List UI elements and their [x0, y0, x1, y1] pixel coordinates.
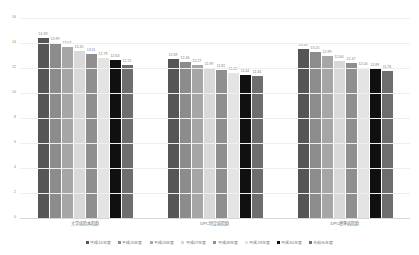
gridline: [20, 118, 410, 119]
bar-value-label: 13.11: [87, 49, 96, 53]
y-axis-tick-label: 8: [14, 116, 16, 120]
bar-value-label: 12.27: [193, 60, 202, 64]
bar[interactable]: [228, 73, 239, 218]
legend-item[interactable]: 平成24年度: [86, 241, 111, 245]
bar-value-label: 12.99: [323, 51, 332, 55]
bar-value-label: 11.34: [253, 71, 262, 75]
legend-swatch-icon: [213, 241, 216, 244]
legend-swatch-icon: [86, 241, 89, 244]
y-axis-tick-label: 16: [12, 16, 16, 20]
bar[interactable]: [240, 75, 251, 218]
bar[interactable]: [180, 62, 191, 218]
legend-item[interactable]: 平成26年度: [150, 241, 175, 245]
gridline: [20, 168, 410, 169]
bar[interactable]: [50, 43, 61, 218]
bar-value-label: 11.99: [205, 63, 214, 67]
bar-value-label: 13.35: [75, 46, 84, 50]
category-label: 大学病院本院群: [71, 222, 99, 226]
legend-swatch-icon: [118, 241, 121, 244]
y-axis: 1614121086420: [0, 18, 18, 218]
bar-value-label: 12.60: [335, 56, 344, 60]
legend-swatch-icon: [277, 241, 280, 244]
bar[interactable]: [110, 60, 121, 218]
legend-item[interactable]: 平成28年度: [213, 241, 238, 245]
bar-value-label: 12.21: [123, 60, 132, 64]
bar[interactable]: [122, 65, 133, 218]
bar[interactable]: [252, 76, 263, 218]
bar-value-label: 12.69: [169, 54, 178, 58]
category-label: DPC特定病院群: [200, 222, 229, 226]
bar-value-label: 12.79: [99, 53, 108, 57]
bar-chart: 1614121086420 14.3913.9913.6713.3513.111…: [0, 0, 419, 255]
y-axis-tick-label: 14: [12, 41, 16, 45]
legend-swatch-icon: [150, 241, 153, 244]
legend-item[interactable]: 令和元年度: [309, 241, 334, 245]
legend-label: 令和元年度: [313, 241, 333, 245]
y-axis-tick-label: 4: [14, 166, 16, 170]
bar[interactable]: [346, 63, 357, 218]
bar-value-label: 12.04: [359, 63, 368, 67]
gridline: [20, 68, 410, 69]
gridline: [20, 193, 410, 194]
bar-value-label: 13.50: [299, 44, 308, 48]
bar[interactable]: [98, 58, 109, 218]
legend-label: 平成28年度: [218, 241, 238, 245]
bar[interactable]: [168, 59, 179, 218]
bar[interactable]: [38, 38, 49, 218]
y-axis-tick-label: 12: [12, 66, 16, 70]
chart-legend: 平成24年度平成25年度平成26年度平成27年度平成28年度平成29年度平成30…: [0, 241, 419, 245]
legend-item[interactable]: 平成29年度: [245, 241, 270, 245]
y-axis-tick-label: 6: [14, 141, 16, 145]
legend-label: 平成24年度: [90, 241, 110, 245]
bar-value-label: 12.37: [347, 58, 356, 62]
legend-label: 平成25年度: [122, 241, 142, 245]
legend-swatch-icon: [245, 241, 248, 244]
y-axis-tick-label: 2: [14, 191, 16, 195]
gridline: [20, 18, 410, 19]
legend-swatch-icon: [309, 241, 312, 244]
gridline: [20, 93, 410, 94]
legend-item[interactable]: 平成30年度: [277, 241, 302, 245]
legend-item[interactable]: 平成27年度: [181, 241, 206, 245]
bar[interactable]: [192, 65, 203, 218]
axis-baseline: [20, 218, 410, 219]
bar-value-label: 12.46: [181, 57, 190, 61]
legend-swatch-icon: [181, 241, 184, 244]
bar[interactable]: [334, 61, 345, 219]
bar-value-label: 11.44: [241, 70, 250, 74]
legend-item[interactable]: 平成25年度: [118, 241, 143, 245]
category-label: DPC標準病院群: [330, 222, 359, 226]
bar-value-label: 13.99: [51, 38, 60, 42]
y-axis-tick-label: 10: [12, 91, 16, 95]
gridline: [20, 143, 410, 144]
bar-value-label: 13.25: [311, 47, 320, 51]
category-axis-labels: 大学病院本院群DPC特定病院群DPC標準病院群: [20, 222, 410, 226]
gridline: [20, 43, 410, 44]
bar-value-label: 14.39: [39, 33, 48, 37]
bar-value-label: 12.63: [111, 55, 120, 59]
y-axis-tick-label: 0: [14, 216, 16, 220]
legend-label: 平成27年度: [186, 241, 206, 245]
legend-label: 平成30年度: [281, 241, 301, 245]
legend-label: 平成29年度: [249, 241, 269, 245]
legend-label: 平成26年度: [154, 241, 174, 245]
